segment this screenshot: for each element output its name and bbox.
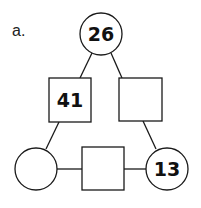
bottom-left-circle[interactable] bbox=[15, 148, 57, 190]
right-square[interactable] bbox=[119, 78, 162, 121]
edge-left-bottom bbox=[46, 122, 59, 149]
edge-top-left bbox=[80, 53, 92, 78]
edge-top-right bbox=[111, 53, 122, 78]
bottom-right-circle-value: 13 bbox=[146, 160, 188, 179]
left-square-value: 41 bbox=[49, 91, 91, 110]
bottom-square[interactable] bbox=[82, 147, 124, 190]
problem-label: a. bbox=[12, 22, 25, 40]
top-circle-value: 26 bbox=[80, 25, 122, 44]
number-triangle-puzzle: a. 26 41 13 bbox=[0, 0, 201, 208]
edge-right-bottom bbox=[143, 121, 156, 149]
